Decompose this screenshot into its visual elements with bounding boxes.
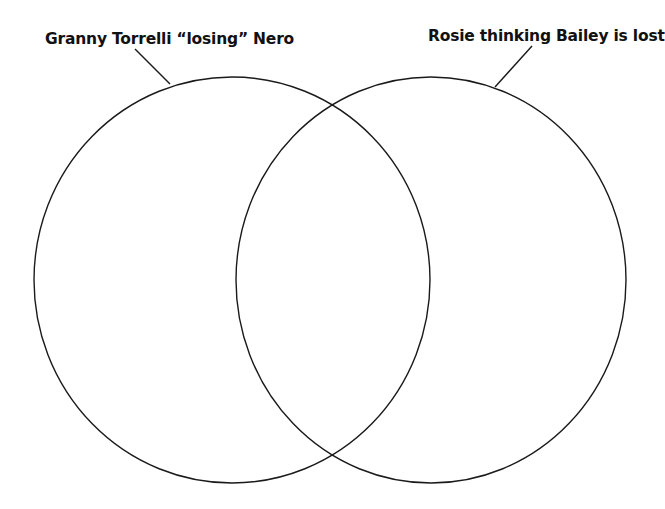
left-set-circle xyxy=(34,77,430,483)
right-set-label: Rosie thinking Bailey is lost xyxy=(428,29,665,45)
left-set-label: Granny Torrelli “losing” Nero xyxy=(45,32,294,48)
right-label-leader-line xyxy=(495,46,532,87)
left-label-leader-line xyxy=(135,49,170,84)
right-set-circle xyxy=(236,77,626,483)
